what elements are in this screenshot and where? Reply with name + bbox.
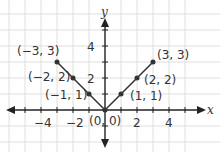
x-tick-label-neg4: −4 (34, 116, 52, 130)
y-axis-arrow-up-icon (101, 18, 109, 27)
point-label-2: (2, 2) (144, 73, 176, 87)
x-tick-label-2: 2 (133, 116, 141, 130)
y-tick-label-4: 4 (87, 40, 95, 54)
point-1 (119, 92, 124, 97)
point-neg3 (55, 60, 60, 65)
x-tick-label-neg2: −2 (66, 116, 84, 130)
point-neg2 (71, 76, 76, 81)
point-label-neg3: (−3, 3) (17, 44, 59, 58)
graph: y x −4 −2 2 4 4 2 (−3, 3) (−2, 2) (−1, 1… (0, 0, 220, 152)
x-tick-label-4: 4 (165, 116, 173, 130)
point-2 (135, 76, 140, 81)
y-axis-arrow-down-icon (101, 139, 109, 148)
point-label-1: (1, 1) (130, 89, 162, 103)
x-axis-label: x (207, 103, 214, 117)
y-tick-label-2: 2 (87, 72, 95, 86)
point-label-neg1: (−1, 1) (45, 88, 87, 102)
point-3 (151, 60, 156, 65)
point-label-0: (0, 0) (89, 114, 121, 128)
x-axis-arrow-left-icon (6, 106, 15, 114)
y-axis-label: y (100, 5, 108, 19)
point-0 (103, 108, 108, 113)
point-label-3: (3, 3) (157, 48, 189, 62)
x-axis-arrow-right-icon (197, 106, 206, 114)
point-label-neg2: (−2, 2) (28, 70, 70, 84)
